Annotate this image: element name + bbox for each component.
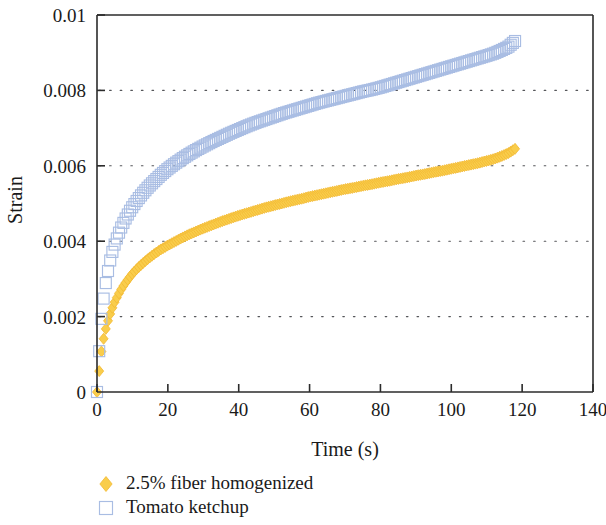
y-tick-label: 0.004 bbox=[43, 231, 86, 252]
y-tick-label: 0.01 bbox=[53, 5, 86, 26]
data-point-marker bbox=[99, 333, 108, 344]
data-point-marker bbox=[103, 266, 114, 277]
x-tick-label: 60 bbox=[300, 399, 319, 420]
legend-item[interactable]: 2.5% fiber homogenized bbox=[100, 472, 314, 493]
y-tick-label: 0 bbox=[77, 382, 87, 403]
axes-group bbox=[97, 15, 593, 392]
creep-strain-chart-figure: 02040608010012014000.0020.0040.0060.0080… bbox=[0, 0, 606, 525]
y-tick-label: 0.008 bbox=[43, 80, 86, 101]
chart-canvas: 02040608010012014000.0020.0040.0060.0080… bbox=[0, 0, 606, 525]
x-tick-label: 20 bbox=[158, 399, 177, 420]
legend-item[interactable]: Tomato ketchup bbox=[100, 496, 249, 517]
data-point-marker bbox=[98, 293, 109, 304]
y-axis-title: Strain bbox=[4, 176, 26, 224]
legend: 2.5% fiber homogenizedTomato ketchup bbox=[100, 472, 314, 517]
y-tick-label: 0.006 bbox=[43, 156, 86, 177]
x-tick-label: 100 bbox=[437, 399, 466, 420]
grid-group bbox=[99, 90, 591, 316]
data-point-marker bbox=[100, 278, 111, 289]
x-tick-label: 140 bbox=[579, 399, 606, 420]
ticks-group bbox=[97, 15, 593, 392]
y-tick-label: 0.002 bbox=[43, 307, 86, 328]
x-axis-title: Time (s) bbox=[311, 438, 379, 461]
data-series bbox=[92, 36, 521, 398]
data-series bbox=[92, 143, 519, 397]
legend-square-marker-icon bbox=[100, 502, 113, 515]
x-tick-label: 120 bbox=[508, 399, 537, 420]
x-tick-label: 40 bbox=[229, 399, 248, 420]
legend-diamond-marker-icon bbox=[100, 477, 112, 492]
legend-label: Tomato ketchup bbox=[126, 496, 249, 517]
legend-label: 2.5% fiber homogenized bbox=[126, 472, 314, 493]
x-tick-label: 0 bbox=[92, 399, 102, 420]
series-group bbox=[92, 36, 521, 398]
data-point-marker bbox=[95, 366, 104, 377]
x-tick-label: 80 bbox=[371, 399, 390, 420]
